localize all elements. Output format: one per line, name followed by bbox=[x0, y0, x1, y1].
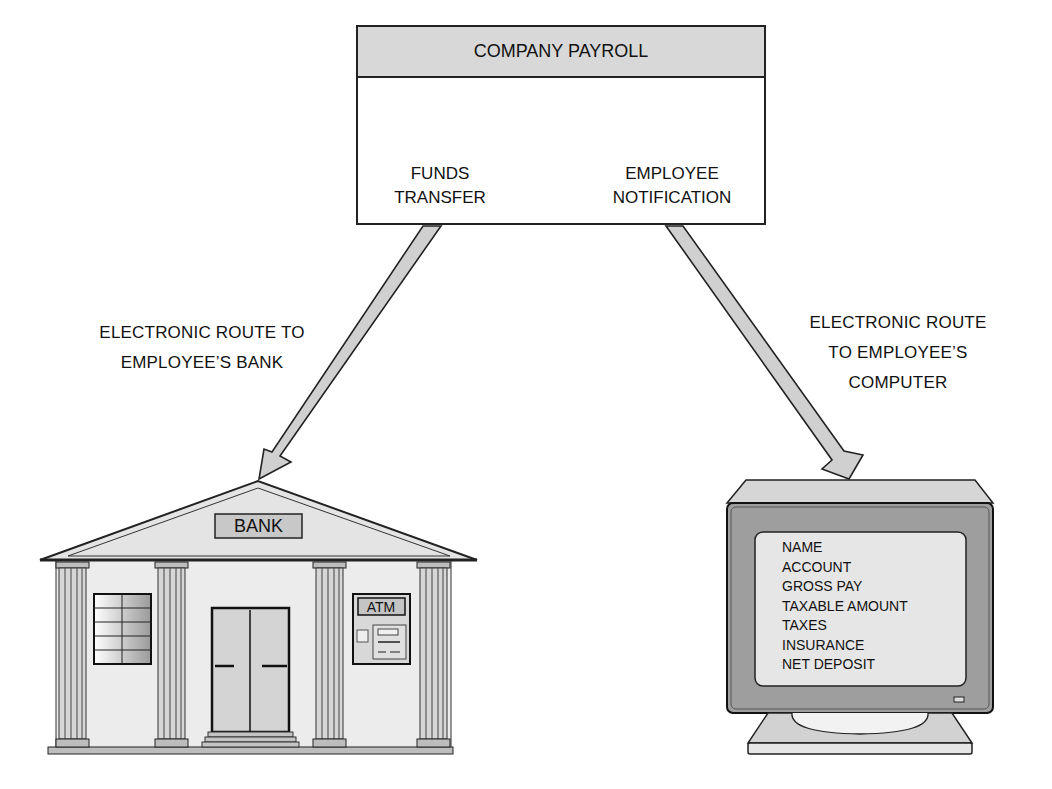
route-to-computer-line2: TO EMPLOYEE’S bbox=[770, 338, 1026, 368]
employee-notification-label: EMPLOYEE NOTIFICATION bbox=[582, 162, 762, 210]
atm-label-text: ATM bbox=[358, 598, 404, 615]
funds-transfer-line1: FUNDS bbox=[375, 162, 505, 186]
bank-sign-text: BANK bbox=[215, 514, 302, 538]
funds-transfer-line2: TRANSFER bbox=[375, 186, 505, 210]
bank-door bbox=[202, 608, 299, 747]
screen-item-name: NAME bbox=[782, 538, 908, 558]
screen-field-list: NAME ACCOUNT GROSS PAY TAXABLE AMOUNT TA… bbox=[782, 538, 908, 675]
screen-item-insurance: INSURANCE bbox=[782, 636, 908, 656]
screen-item-gross-pay: GROSS PAY bbox=[782, 577, 908, 597]
employee-notification-line1: EMPLOYEE bbox=[582, 162, 762, 186]
route-to-computer-label: ELECTRONIC ROUTE TO EMPLOYEE’S COMPUTER bbox=[770, 308, 1026, 398]
route-to-bank-label: ELECTRONIC ROUTE TO EMPLOYEE’S BANK bbox=[52, 318, 352, 378]
bank-window bbox=[94, 594, 151, 664]
route-to-computer-line1: ELECTRONIC ROUTE bbox=[770, 308, 1026, 338]
screen-item-account: ACCOUNT bbox=[782, 558, 908, 578]
screen-item-taxes: TAXES bbox=[782, 616, 908, 636]
screen-item-taxable-amount: TAXABLE AMOUNT bbox=[782, 597, 908, 617]
route-to-computer-line3: COMPUTER bbox=[770, 368, 1026, 398]
power-led-icon bbox=[954, 697, 964, 702]
route-to-bank-line2: EMPLOYEE’S BANK bbox=[52, 348, 352, 378]
employee-notification-line2: NOTIFICATION bbox=[582, 186, 762, 210]
route-to-bank-line1: ELECTRONIC ROUTE TO bbox=[52, 318, 352, 348]
screen-item-net-deposit: NET DEPOSIT bbox=[782, 655, 908, 675]
funds-transfer-label: FUNDS TRANSFER bbox=[375, 162, 505, 210]
payroll-title: COMPANY PAYROLL bbox=[358, 27, 764, 78]
